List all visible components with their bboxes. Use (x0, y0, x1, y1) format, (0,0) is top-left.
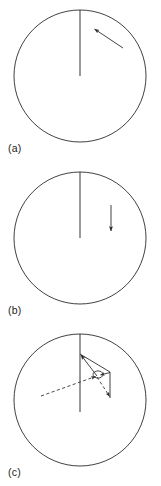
panel-a: (a) (0, 0, 161, 162)
panel-label-b: (b) (8, 305, 21, 316)
component-vector-to-vertex-c (101, 373, 111, 376)
panel-a-diagram (0, 0, 161, 162)
panel-label-a: (a) (8, 143, 21, 154)
component-vector-right-c (80, 354, 110, 372)
dashed-vector-lower-left-c (41, 377, 96, 397)
resultant-vector-up-left-c (81, 355, 97, 376)
panel-b-diagram (0, 162, 161, 324)
dashed-vector-lower-right-c (97, 377, 110, 397)
panel-b: (b) (0, 162, 161, 324)
figure-root: (a) (b) (0, 0, 161, 486)
velocity-vector-a (95, 29, 124, 48)
panel-label-c: (c) (8, 467, 21, 478)
panel-c-diagram (0, 324, 161, 486)
panel-c: (c) (0, 324, 161, 486)
